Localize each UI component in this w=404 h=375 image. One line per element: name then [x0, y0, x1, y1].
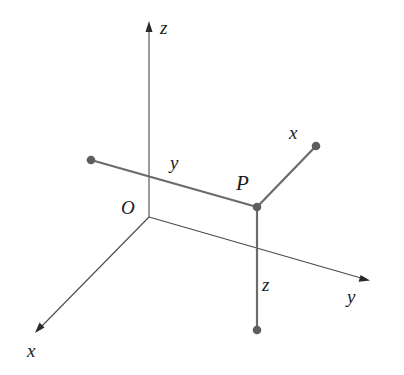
x-segment-endpoint	[312, 142, 321, 151]
point-p-label: P	[235, 171, 249, 195]
point-segments	[87, 142, 321, 335]
origin-label: O	[121, 197, 135, 218]
x-axis-arrow-icon	[35, 323, 45, 334]
y-segment-label: y	[168, 152, 179, 173]
axes	[35, 21, 370, 333]
z-segment-endpoint	[253, 326, 262, 335]
x-coordinate-segment	[257, 146, 316, 207]
z-axis-label: z	[159, 17, 168, 38]
point-p-marker	[253, 203, 262, 212]
x-axis-line	[41, 217, 149, 327]
y-axis-arrow-icon	[359, 275, 370, 282]
y-axis-label: y	[345, 286, 356, 307]
x-axis-label: x	[26, 340, 36, 361]
x-segment-label: x	[288, 122, 298, 143]
coordinate-diagram: z y x O P y x z	[0, 0, 404, 375]
z-axis-arrow-icon	[146, 21, 153, 32]
y-segment-endpoint	[87, 156, 96, 165]
y-axis-line	[149, 217, 361, 278]
z-segment-label: z	[261, 274, 270, 295]
